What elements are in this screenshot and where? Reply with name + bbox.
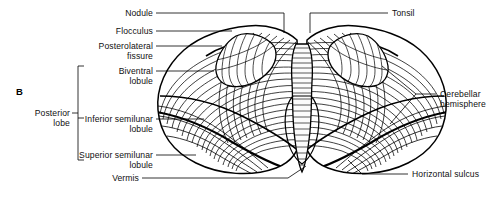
label-nodule: Nodule xyxy=(20,8,153,18)
label-tonsil: Tonsil xyxy=(392,8,502,18)
label-horizontal-sulcus: Horizontal sulcus xyxy=(412,169,504,179)
label-biventral-lobule: Biventral lobule xyxy=(20,66,153,86)
cerebellum-figure: B Nodule Flocculus Posterolateral fissur… xyxy=(0,0,504,198)
label-posterolateral-fissure: Posterolateral fissure xyxy=(20,41,153,61)
panel-letter-b: B xyxy=(16,86,23,97)
label-superior-semilunar-lobule: Superior semilunar lobule xyxy=(20,150,153,170)
label-vermis: Vermis xyxy=(20,173,139,183)
label-posterior-lobe: Posterior lobe xyxy=(0,108,70,128)
label-cerebellar-hemisphere: Cerebellar hemisphere xyxy=(440,89,504,109)
label-flocculus: Flocculus xyxy=(20,26,153,36)
